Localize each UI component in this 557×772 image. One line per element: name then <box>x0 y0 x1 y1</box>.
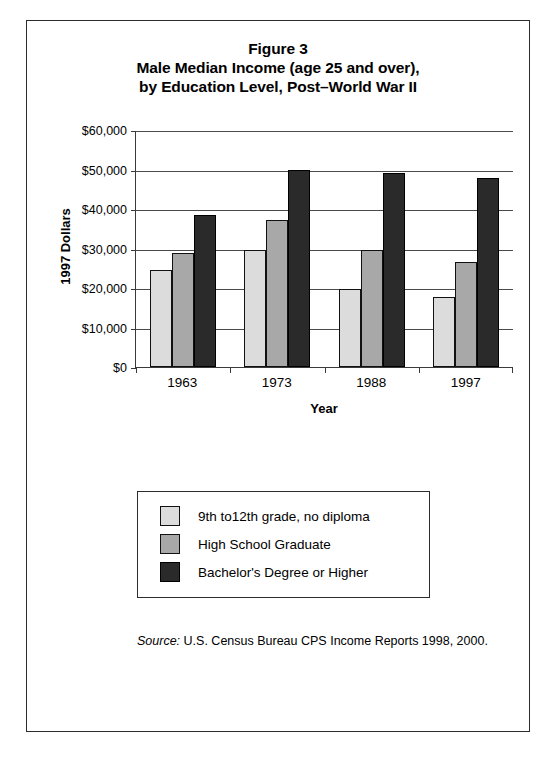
bar <box>361 250 383 367</box>
title-line-1: Figure 3 <box>27 39 529 58</box>
legend-label: High School Graduate <box>198 537 331 552</box>
source-note: Source: U.S. Census Bureau CPS Income Re… <box>137 633 507 650</box>
bar <box>288 170 310 368</box>
x-tick-label: 1963 <box>135 375 230 390</box>
legend-swatch <box>160 562 180 582</box>
x-tick-mark <box>419 367 420 373</box>
title-line-2: Male Median Income (age 25 and over), <box>27 58 529 77</box>
bar <box>194 215 216 367</box>
legend-swatch <box>160 534 180 554</box>
y-tick-label: $50,000 <box>82 164 127 178</box>
x-tick-mark <box>136 367 137 373</box>
x-tick-label: 1988 <box>324 375 419 390</box>
legend-item: 9th to12th grade, no diploma <box>138 502 429 530</box>
bar-group <box>230 131 324 367</box>
x-axis-title: Year <box>135 401 513 416</box>
bar <box>383 173 405 367</box>
legend-label: Bachelor's Degree or Higher <box>198 565 368 580</box>
figure-frame: Figure 3 Male Median Income (age 25 and … <box>26 20 530 732</box>
legend-swatch <box>160 506 180 526</box>
legend-item: Bachelor's Degree or Higher <box>138 558 429 586</box>
bar-group <box>325 131 419 367</box>
bar <box>455 262 477 367</box>
x-tick-label: 1973 <box>230 375 325 390</box>
y-tick-label: $30,000 <box>82 243 127 257</box>
bars-layer <box>136 131 513 367</box>
x-axis-tick-labels: 1963197319881997 <box>135 375 513 390</box>
legend: 9th to12th grade, no diplomaHigh School … <box>137 491 430 598</box>
y-tick-label: $40,000 <box>82 203 127 217</box>
x-tick-label: 1997 <box>419 375 514 390</box>
title-line-3: by Education Level, Post–World War II <box>27 77 529 96</box>
figure-title: Figure 3 Male Median Income (age 25 and … <box>27 39 529 96</box>
bar-group <box>136 131 230 367</box>
bar <box>477 178 499 367</box>
source-text: U.S. Census Bureau CPS Income Reports 19… <box>180 634 488 648</box>
y-axis-title: 1997 Dollars <box>58 187 73 307</box>
chart-plot-region: 1997 Dollars $0$10,000$20,000$30,000$40,… <box>27 121 531 451</box>
x-tick-mark <box>230 367 231 373</box>
legend-label: 9th to12th grade, no diploma <box>198 509 370 524</box>
y-tick-label: $20,000 <box>82 282 127 296</box>
y-tick-label: $60,000 <box>82 124 127 138</box>
bar <box>244 250 266 367</box>
y-tick-label: $10,000 <box>82 322 127 336</box>
x-tick-mark <box>325 367 326 373</box>
bar <box>150 270 172 367</box>
y-tick-label: $0 <box>113 361 127 375</box>
source-label: Source: <box>137 634 180 648</box>
bar <box>172 253 194 367</box>
bar <box>266 220 288 367</box>
bar <box>339 289 361 367</box>
legend-item: High School Graduate <box>138 530 429 558</box>
bar-group <box>419 131 513 367</box>
x-tick-mark <box>512 367 513 373</box>
bar <box>433 297 455 367</box>
plot-box: $0$10,000$20,000$30,000$40,000$50,000$60… <box>135 131 513 368</box>
